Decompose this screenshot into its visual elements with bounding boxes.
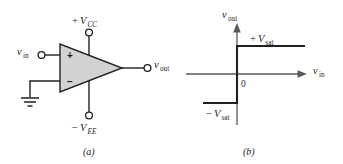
positive-saturation-label: + V sat (250, 33, 273, 47)
svg-text:in: in (319, 71, 325, 79)
svg-text:+: + (250, 33, 256, 44)
inverting-input-sign: − (67, 76, 73, 87)
svg-text:EE: EE (87, 128, 97, 136)
vout-label: v out (154, 59, 169, 73)
negative-saturation-label: − V sat (206, 108, 229, 122)
svg-text:sat: sat (266, 39, 274, 47)
x-axis-arrow-icon (298, 70, 308, 78)
svg-text:−: − (72, 122, 78, 133)
svg-text:out: out (228, 15, 237, 23)
ground-icon (21, 98, 39, 106)
vee-terminal-node-icon (86, 112, 93, 119)
svg-text:v: v (222, 9, 227, 20)
vin-label: v in (17, 46, 29, 60)
svg-text:v: v (154, 59, 159, 70)
vin-terminal-node-icon (38, 52, 45, 59)
vcc-terminal-node-icon (86, 29, 93, 36)
figure-container: + − v in v out + V CC − V (0, 0, 343, 164)
origin-label: 0 (241, 79, 246, 89)
inverting-input-ground-wire (30, 81, 60, 97)
panel-b-transfer-characteristic: v out v in 0 + V sat − V sat (186, 9, 325, 158)
svg-text:v: v (313, 65, 318, 76)
svg-text:+: + (72, 15, 78, 26)
vout-terminal-node-icon (144, 65, 151, 72)
vcc-label: + V CC (72, 15, 97, 29)
y-axis-label: v out (222, 9, 237, 23)
x-axis-label: v in (313, 65, 325, 79)
svg-text:−: − (206, 108, 212, 119)
svg-text:out: out (160, 65, 169, 73)
panel-b-caption: (b) (243, 146, 255, 158)
noninverting-input-sign: + (67, 50, 73, 61)
figure-svg: + − v in v out + V CC − V (0, 0, 343, 164)
panel-a-caption: (a) (83, 146, 95, 158)
vee-label: − V EE (72, 122, 97, 136)
y-axis-arrow-icon (233, 23, 241, 33)
panel-a-opamp-schematic: + − v in v out + V CC − V (17, 15, 169, 158)
svg-text:v: v (17, 46, 22, 57)
svg-text:CC: CC (88, 21, 98, 29)
svg-text:in: in (23, 52, 29, 60)
svg-text:sat: sat (222, 114, 230, 122)
